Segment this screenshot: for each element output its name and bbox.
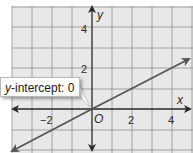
x-axis-label: x <box>176 93 184 107</box>
x-tick-4: 4 <box>168 114 174 126</box>
x-tick-2: 2 <box>128 114 134 126</box>
y-intercept-callout: y-intercept: 0 <box>0 77 80 97</box>
y-tick-4: 4 <box>81 23 87 35</box>
y-tick-2: 2 <box>81 63 87 75</box>
y-axis-label: y <box>96 8 104 22</box>
origin-label: O <box>94 112 103 126</box>
callout-text: -intercept: 0 <box>11 81 74 95</box>
x-tick-neg2: −2 <box>40 114 53 126</box>
